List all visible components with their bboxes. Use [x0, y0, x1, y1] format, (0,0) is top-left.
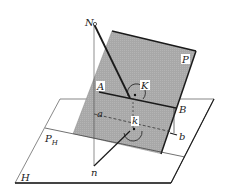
label-P: P — [181, 54, 189, 65]
label-n: n — [91, 167, 97, 178]
label-A: A — [96, 81, 104, 92]
point-n-marker — [93, 22, 96, 25]
label-a: a — [97, 108, 103, 119]
point-k-upper-dot — [134, 94, 136, 96]
point-k-lower-dot — [133, 128, 135, 130]
geometry-diagram: N P A K B a k b PH H n — [0, 0, 229, 196]
label-N: N — [84, 17, 95, 28]
label-H: H — [20, 172, 30, 183]
label-K: K — [140, 80, 149, 91]
label-k: k — [132, 115, 138, 126]
label-B: B — [178, 104, 186, 115]
label-b: b — [179, 131, 185, 142]
